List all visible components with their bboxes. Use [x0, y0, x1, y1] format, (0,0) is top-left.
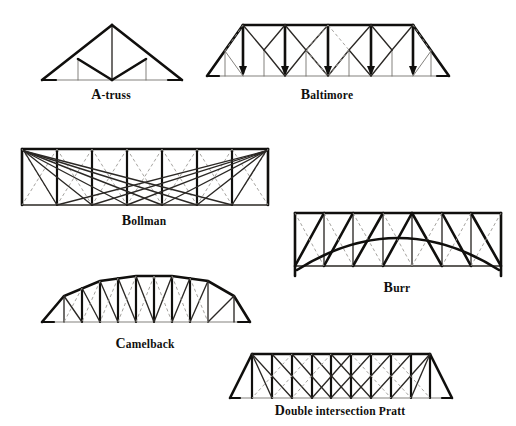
caption-rest-camelback: amelback — [126, 338, 175, 350]
burr-dashed-counters — [295, 213, 501, 266]
figure-a-truss — [38, 18, 186, 86]
caption-initial-camelback: C — [115, 336, 125, 351]
bollman-verticals — [57, 149, 232, 205]
camelback-top-chord — [42, 276, 250, 322]
figure-bollman — [18, 143, 272, 213]
caption-bollman: Bollman — [18, 214, 270, 228]
burr-arch — [297, 238, 499, 270]
caption-double-intersection-pratt: Double intersection Pratt — [226, 404, 454, 418]
caption-initial-bollman: B — [122, 213, 132, 228]
figure-double-intersection-pratt — [226, 348, 456, 408]
caption-camelback: Camelback — [38, 337, 252, 351]
double-intersection-pratt-diagram — [226, 348, 456, 408]
caption-initial-a-truss: A — [91, 87, 101, 102]
baltimore-diagram — [203, 16, 453, 84]
baltimore-main-verticals — [239, 25, 417, 76]
caption-rest-double-intersection-pratt: ouble intersection Pratt — [285, 405, 405, 417]
camelback-verticals — [64, 276, 234, 322]
figure-camelback — [38, 264, 254, 332]
caption-rest-a-truss: -truss — [102, 89, 131, 101]
a-truss-diagram — [38, 18, 186, 86]
burr-diagram — [290, 208, 506, 280]
caption-a-truss: A-truss — [38, 88, 184, 102]
figure-baltimore — [203, 16, 453, 84]
caption-baltimore: Baltimore — [203, 88, 451, 102]
caption-rest-baltimore: altimore — [310, 89, 353, 101]
caption-burr: Burr — [290, 281, 504, 295]
bollman-diagram — [18, 143, 272, 213]
caption-initial-double-intersection-pratt: D — [275, 403, 285, 418]
camelback-diagram — [38, 264, 254, 332]
caption-initial-burr: B — [384, 280, 394, 295]
caption-rest-burr: urr — [393, 282, 410, 294]
truss-plate: A-truss — [0, 0, 516, 426]
figure-burr — [290, 208, 506, 280]
caption-initial-baltimore: B — [301, 87, 311, 102]
caption-rest-bollman: ollman — [131, 215, 166, 227]
